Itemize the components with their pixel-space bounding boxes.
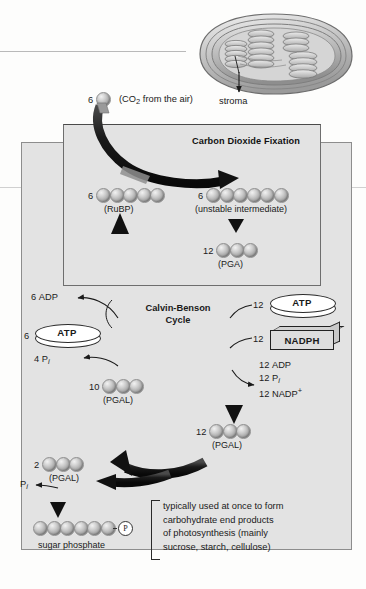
- sphere: [150, 188, 165, 203]
- pgal10-count: 10: [89, 382, 99, 392]
- nadph-count: 12: [253, 334, 263, 346]
- molecule-rubp: 6: [88, 188, 164, 203]
- pi-left-label: 4 Pi: [34, 354, 50, 367]
- product-12-adp: 12 ADP: [259, 360, 291, 372]
- molecule-pgal-2: 2: [34, 457, 83, 472]
- sphere: [274, 188, 289, 203]
- molecule-unstable-intermediate: 6: [198, 188, 287, 203]
- sphere: [96, 188, 111, 203]
- sugar-phosphate-caption: sugar phosphate: [38, 540, 105, 550]
- sphere: [206, 188, 221, 203]
- atp-left-label: ATP: [35, 324, 99, 341]
- fixation-box-title: Carbon Dioxide Fixation: [192, 136, 322, 146]
- atp-right-label: ATP: [270, 294, 334, 311]
- atp-left-count: 6: [24, 331, 29, 343]
- molecule-pgal-10: 10: [89, 379, 143, 394]
- end-note-line-3: of photosynthesis (mainly: [163, 528, 268, 538]
- stroma-label: stroma: [219, 96, 247, 108]
- pgal2-caption: (PGAL): [49, 473, 79, 483]
- calvin-benson-cycle-diagram: stroma 6 (CO2 from the air) Carbon Dioxi…: [0, 0, 366, 589]
- sphere: [236, 424, 251, 439]
- end-note-line-4: sucrose, starch, cellulose): [163, 542, 270, 552]
- sphere: [87, 521, 102, 536]
- end-note-line-2: carbohydrate end products: [163, 515, 274, 525]
- product-12-pi: 12 Pi: [259, 373, 280, 386]
- cycle-name-line2: Cycle: [166, 315, 191, 325]
- phosphate-bond: [113, 528, 117, 529]
- rubp-caption: (RuBP): [104, 204, 134, 214]
- atp-right-icon: ATP: [270, 294, 336, 320]
- sphere: [260, 188, 275, 203]
- phosphate-group-icon: P: [118, 521, 133, 536]
- sphere: [60, 521, 75, 536]
- adp-label: 6 ADP: [31, 292, 58, 304]
- rubp-count: 6: [88, 191, 93, 201]
- molecule-pgal-12: 12: [196, 424, 250, 439]
- end-note-line-1: typically used at once to form: [163, 501, 283, 511]
- pgal12-count: 12: [196, 427, 206, 437]
- co2-caption: (CO2 from the air): [119, 94, 193, 107]
- sphere: [42, 457, 57, 472]
- pgal10-caption: (PGAL): [103, 395, 133, 405]
- cycle-name-line1: Calvin-Benson: [145, 303, 210, 313]
- scan-artifact-line: [0, 51, 186, 52]
- co2-count: 6: [88, 95, 93, 105]
- chloroplast-illustration: [186, 8, 358, 98]
- sphere: [129, 379, 144, 394]
- nadph-label: NADPH: [270, 330, 334, 350]
- end-product-note: typically used at once to form carbohydr…: [163, 500, 283, 554]
- product-12-nadp-plus: 12 NADP+: [259, 386, 302, 401]
- pgal12-caption: (PGAL): [212, 440, 242, 450]
- sphere: [123, 188, 138, 203]
- atp-right-count: 12: [253, 300, 263, 312]
- unstable-count: 6: [198, 191, 203, 201]
- nadph-icon: NADPH: [270, 326, 342, 350]
- end-note-bracket: [151, 500, 160, 560]
- atp-left-icon: ATP: [35, 324, 101, 350]
- pgal2-count: 2: [34, 460, 39, 470]
- pga-count: 12: [203, 246, 213, 256]
- sphere: [243, 243, 258, 258]
- pi-bottom-label: Pi: [20, 479, 28, 492]
- molecule-sugar-phosphate: P: [33, 521, 133, 536]
- molecule-pga: 12: [203, 243, 257, 258]
- sphere: [69, 457, 84, 472]
- sphere: [96, 92, 111, 107]
- pga-caption: (PGA): [218, 259, 243, 269]
- sphere: [33, 521, 48, 536]
- cycle-name: Calvin-Benson Cycle: [133, 303, 223, 327]
- unstable-caption: (unstable intermediate): [195, 204, 287, 214]
- sphere: [233, 188, 248, 203]
- molecule-co2: 6: [88, 92, 111, 107]
